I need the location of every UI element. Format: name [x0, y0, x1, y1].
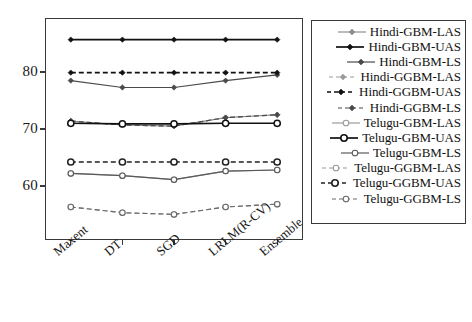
- series-hindi-ggbm-uas: [68, 70, 280, 75]
- legend-swatch-icon: [321, 161, 351, 175]
- legend-item[interactable]: Telugu-GBM-UAS: [312, 130, 465, 145]
- data-point-marker: [223, 168, 228, 173]
- data-point-marker: [119, 159, 125, 165]
- legend-label: Hindi-GBM-LS: [379, 54, 461, 70]
- legend-item[interactable]: Telugu-GBM-LAS: [312, 115, 465, 130]
- legend-label: Hindi-GGBM-LS: [370, 100, 461, 116]
- legend-swatch-icon: [340, 146, 370, 160]
- data-point-marker: [171, 159, 177, 165]
- data-point-marker: [120, 173, 125, 178]
- data-point-marker: [68, 78, 73, 83]
- data-point-marker: [120, 85, 125, 90]
- y-tick-label: 80: [0, 64, 38, 79]
- legend-item[interactable]: Telugu-GBM-LS: [312, 146, 465, 161]
- series-telugu-gbm-uas: [68, 120, 281, 127]
- data-point-marker: [171, 70, 176, 75]
- legend-label: Telugu-GBM-LAS: [364, 115, 461, 131]
- data-point-marker: [68, 204, 73, 209]
- legend-item[interactable]: Hindi-GGBM-LAS: [312, 70, 465, 85]
- data-point-marker: [275, 37, 280, 42]
- data-point-marker: [274, 120, 280, 126]
- series-hindi-gbm-uas: [68, 37, 280, 42]
- data-point-marker: [120, 37, 125, 42]
- line-chart-figure: 607080 MaxentDTSGDLRLM(R-CV)Ensemble Hin…: [0, 0, 472, 322]
- data-point-marker: [171, 177, 176, 182]
- y-tick-label: 60: [0, 178, 38, 193]
- data-point-marker: [68, 171, 73, 176]
- legend-item[interactable]: Telugu-GGBM-LAS: [312, 161, 465, 176]
- data-point-marker: [223, 120, 229, 126]
- legend-item[interactable]: Hindi-GGBM-UAS: [312, 85, 465, 100]
- x-tick-label: DT: [102, 237, 124, 258]
- data-point-marker: [68, 120, 74, 126]
- data-point-marker: [68, 37, 73, 42]
- data-point-marker: [274, 159, 280, 165]
- data-point-marker: [223, 70, 228, 75]
- series-telugu-ggbm-uas: [68, 159, 281, 165]
- series-telugu-gbm-ls: [68, 167, 280, 182]
- legend-item[interactable]: Hindi-GBM-UAS: [312, 39, 465, 54]
- data-point-marker: [223, 159, 229, 165]
- data-point-marker: [275, 201, 280, 206]
- legend-label: Hindi-GBM-UAS: [368, 39, 461, 55]
- data-point-marker: [120, 210, 125, 215]
- data-point-marker: [171, 85, 176, 90]
- legend-label: Telugu-GGBM-LAS: [354, 160, 461, 176]
- legend-item[interactable]: Hindi-GBM-LS: [312, 54, 465, 69]
- legend-item[interactable]: Hindi-GBM-LAS: [312, 24, 465, 39]
- legend-swatch-icon: [331, 192, 361, 206]
- legend-label: Telugu-GGBM-UAS: [353, 175, 461, 191]
- chart-legend: Hindi-GBM-LASHindi-GBM-UASHindi-GBM-LSHi…: [311, 20, 466, 224]
- legend-swatch-icon: [329, 131, 359, 145]
- legend-item[interactable]: Telugu-GGBM-LS: [312, 191, 465, 206]
- legend-swatch-icon: [331, 116, 361, 130]
- legend-label: Hindi-GGBM-LAS: [361, 69, 461, 85]
- legend-item[interactable]: Telugu-GGBM-UAS: [312, 176, 465, 191]
- data-point-marker: [223, 204, 228, 209]
- y-tick-label: 70: [0, 121, 38, 136]
- data-point-marker: [171, 121, 177, 127]
- data-point-marker: [275, 112, 280, 117]
- data-point-marker: [120, 70, 125, 75]
- data-point-marker: [68, 70, 73, 75]
- data-point-marker: [223, 78, 228, 83]
- legend-label: Telugu-GBM-LS: [373, 145, 461, 161]
- data-point-marker: [171, 212, 176, 217]
- legend-swatch-icon: [337, 25, 367, 39]
- legend-swatch-icon: [328, 70, 358, 84]
- legend-label: Telugu-GGBM-LS: [364, 191, 461, 207]
- legend-item[interactable]: Hindi-GGBM-LS: [312, 100, 465, 115]
- legend-swatch-icon: [320, 176, 350, 190]
- legend-label: Hindi-GBM-LAS: [370, 24, 461, 40]
- data-point-marker: [68, 159, 74, 165]
- data-point-marker: [223, 37, 228, 42]
- legend-label: Hindi-GGBM-UAS: [359, 84, 461, 100]
- legend-swatch-icon: [335, 40, 365, 54]
- legend-swatch-icon: [326, 85, 356, 99]
- legend-label: Telugu-GBM-UAS: [362, 130, 461, 146]
- data-point-marker: [119, 121, 125, 127]
- legend-swatch-icon: [337, 101, 367, 115]
- legend-swatch-icon: [346, 55, 376, 69]
- data-point-marker: [275, 167, 280, 172]
- data-point-marker: [171, 37, 176, 42]
